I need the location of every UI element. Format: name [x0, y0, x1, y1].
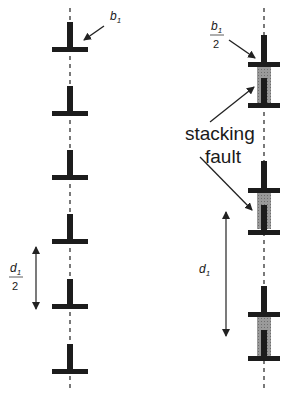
stacking-fault-label-line2: fault — [205, 146, 242, 167]
full-spacing-label: d1 — [199, 262, 210, 278]
stacking-fault-arrow-upper — [210, 87, 254, 122]
burgers-vector-label-b1: b1 — [110, 9, 121, 25]
edge-dislocation — [52, 279, 88, 309]
partial-dislocation-pair — [248, 161, 280, 235]
edge-dislocation — [52, 86, 88, 116]
partial-burgers-vector-arrow — [229, 40, 255, 58]
partial-dislocation-pair — [248, 286, 280, 361]
right-column: b1 2 stacking fault d1 — [185, 8, 280, 388]
dislocation-diagram: b1 d1 2 — [0, 0, 296, 395]
edge-dislocation — [52, 22, 88, 52]
partial-dislocation-pair — [248, 35, 280, 108]
svg-text:2: 2 — [12, 280, 18, 292]
left-column: b1 d1 2 — [9, 8, 121, 388]
edge-dislocation — [52, 150, 88, 180]
svg-text:d1: d1 — [10, 261, 21, 277]
edge-dislocation — [52, 344, 88, 374]
stacking-fault-label-line1: stacking — [185, 123, 255, 144]
svg-text:b1: b1 — [211, 19, 222, 35]
half-spacing-label: d1 2 — [9, 261, 23, 292]
partial-burgers-vector-label: b1 2 — [210, 19, 224, 50]
svg-text:2: 2 — [213, 38, 219, 50]
edge-dislocation — [52, 214, 88, 244]
burgers-vector-arrow — [84, 26, 104, 40]
